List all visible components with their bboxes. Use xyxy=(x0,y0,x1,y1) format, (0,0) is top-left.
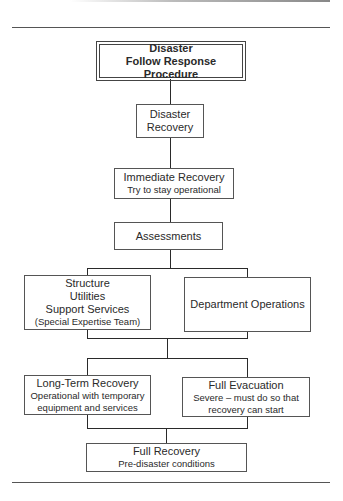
box-text: Utilities xyxy=(70,290,105,303)
structure-box: Structure Utilities Support Services (Sp… xyxy=(24,275,151,330)
box-text: (Special Expertise Team) xyxy=(35,316,140,328)
long-term-recovery-box: Long-Term Recovery Operational with temp… xyxy=(24,375,151,415)
box-text: Support Services xyxy=(46,303,130,316)
box-subtitle: recovery can start xyxy=(208,404,284,416)
assessments-box: Assessments xyxy=(114,222,223,250)
full-recovery-box: Full Recovery Pre-disaster conditions xyxy=(86,443,247,472)
box-title: Disaster xyxy=(149,42,192,55)
box-title: Full Recovery xyxy=(133,445,200,458)
bracket-line xyxy=(87,358,248,359)
box-title: Long-Term Recovery xyxy=(36,377,138,390)
disaster-response-box: Disaster Follow Response Procedure xyxy=(99,44,243,78)
connector xyxy=(170,250,171,268)
connector xyxy=(167,338,168,358)
box-title: Full Evacuation xyxy=(208,379,283,392)
connector xyxy=(170,79,171,104)
box-subtitle: Try to stay operational xyxy=(127,184,221,196)
disaster-recovery-box: Disaster Recovery xyxy=(136,104,204,138)
top-rule xyxy=(12,27,330,28)
box-text: Disaster xyxy=(150,108,190,121)
box-title: Assessments xyxy=(136,230,201,243)
department-operations-box: Department Operations xyxy=(184,277,311,332)
immediate-recovery-box: Immediate Recovery Try to stay operation… xyxy=(114,168,234,199)
full-evacuation-box: Full Evacuation Severe – must do so that… xyxy=(182,377,310,417)
box-subtitle: Follow Response Procedure xyxy=(100,55,242,81)
connector xyxy=(170,199,171,222)
box-subtitle: equipment and services xyxy=(37,402,137,414)
bracket-line xyxy=(87,268,248,269)
box-text: Structure xyxy=(65,277,110,290)
bracket-line xyxy=(87,428,248,429)
box-subtitle: Severe – must do so that xyxy=(193,392,299,404)
connector xyxy=(166,428,167,443)
bottom-rule xyxy=(12,482,330,483)
box-subtitle: Pre-disaster conditions xyxy=(118,458,215,470)
box-text: Recovery xyxy=(147,121,193,134)
connector xyxy=(170,138,171,168)
top-edge-shadow xyxy=(70,0,330,2)
box-subtitle: Operational with temporary xyxy=(30,390,144,402)
box-title: Department Operations xyxy=(190,298,304,311)
box-title: Immediate Recovery xyxy=(124,171,225,184)
